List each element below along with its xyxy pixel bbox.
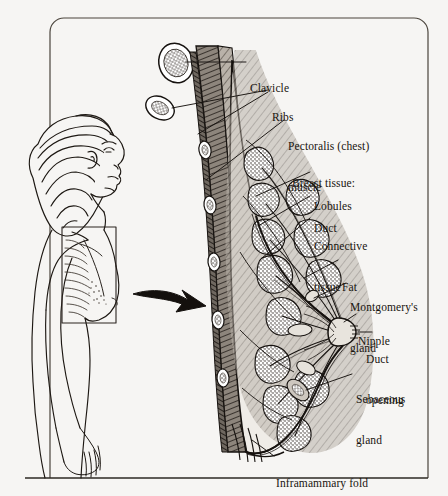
label-sebaceous-gland-line-1: Sebaceous — [356, 393, 405, 407]
label-inframammary-fold-line-1: Inframammary fold — [276, 477, 368, 491]
label-inframammary-fold: Inframammary fold — [276, 450, 368, 496]
label-connective-tissue-line-1: Connective — [314, 240, 367, 254]
label-duct-opening-line-1: Duct — [366, 353, 404, 367]
label-sebaceous-gland: Sebaceous gland — [356, 366, 405, 461]
label-sebaceous-gland-line-2: gland — [356, 434, 405, 448]
